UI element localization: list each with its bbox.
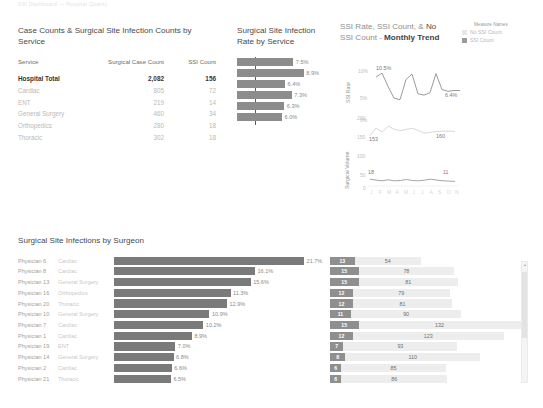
rate-bar-row[interactable]: 6.4% [237, 80, 331, 88]
no-ssi-count-label: 86 [391, 376, 397, 382]
no-ssi-count-bar: 93 [343, 342, 457, 350]
rate-panel-title: Surgical Site Infection Rate by Service [237, 26, 331, 47]
col-header-case-count: Surgical Case Count [92, 58, 164, 71]
surgeon-bar-wrap: 10.9% [114, 310, 330, 318]
rate-bar-row[interactable]: 6.0% [237, 113, 331, 121]
surgeon-service: Thoracic [58, 376, 114, 382]
surgeon-count-row[interactable]: 1354 [330, 257, 526, 265]
surgeon-count-row[interactable]: 12123 [330, 332, 526, 340]
surgeon-bar-wrap: 15.6% [114, 278, 330, 286]
table-row[interactable]: Thoracic30218 [18, 132, 216, 144]
no-ssi-count-label: 54 [385, 258, 391, 264]
surgeon-rate-bars: Physician 6Cardiac21.7%Physician 8Cardia… [18, 257, 330, 386]
cell-case-count: 302 [92, 132, 164, 144]
surgeon-count-row[interactable]: 1279 [330, 289, 526, 297]
ssi-rate-bar-chart: 7.5%8.9%6.4%7.3%6.3%6.0% [237, 58, 331, 121]
surgeon-row[interactable]: Physician 6Cardiac21.7% [18, 257, 330, 265]
cell-ssi-count: 14 [164, 96, 216, 108]
surgeon-count-row[interactable]: 1578 [330, 267, 526, 275]
surgeon-name: Physician 6 [18, 258, 58, 264]
surgeon-count-row[interactable]: 15132 [330, 321, 526, 329]
cell-service: Thoracic [18, 132, 92, 144]
legend-item-no-ssi-count[interactable]: No SSI Count [462, 29, 540, 35]
rate-bar-label: 8.9% [306, 70, 319, 76]
rate-bar-row[interactable]: 7.5% [237, 58, 331, 66]
surgeon-name: Physician 1 [18, 333, 58, 339]
cell-ssi-count: 18 [164, 132, 216, 144]
rate-bar-label: 7.5% [296, 59, 309, 65]
surgeon-row[interactable]: Physician 21Thoracic6.5% [18, 375, 330, 383]
trend-title-part3: SSI Count - [340, 33, 384, 42]
vol-ytick-150: 150 [357, 134, 365, 140]
trend-title-bold: Monthly Trend [384, 33, 439, 42]
col-header-ssi-count: SSI Count [164, 58, 216, 71]
table-row[interactable]: ENT21914 [18, 96, 216, 108]
surgeon-rate-label: 7.0% [178, 343, 191, 349]
x-axis-tick: F [379, 189, 382, 195]
table-row[interactable]: Hospital Total2,082156 [18, 71, 216, 84]
dashboard-page: SSI Dashboard — Hospital Quality Case Co… [0, 0, 543, 408]
legend-swatch-no-ssi [462, 30, 467, 35]
surgeon-count-row[interactable]: 793 [330, 342, 526, 350]
surgeon-count-row[interactable]: 1281 [330, 299, 526, 307]
surgeon-row[interactable]: Physician 10General Surgery10.9% [18, 310, 330, 318]
vol-ytick-0: 0 [363, 185, 366, 191]
surgeon-count-row[interactable]: 686 [330, 375, 526, 383]
surgeon-row[interactable]: Physician 8Cardiac16.1% [18, 267, 330, 275]
surgeon-bar-wrap: 8.9% [114, 332, 330, 340]
vol-ytick-200: 200 [357, 115, 365, 121]
volume-start-label: 153 [369, 136, 378, 142]
rate-bar-row[interactable]: 7.3% [237, 91, 331, 99]
ssi-count-label: 12 [339, 333, 345, 339]
ssi-count-label: 11 [338, 311, 343, 317]
no-ssi-count-bar: 81 [353, 299, 452, 307]
surgeon-count-row[interactable]: 1190 [330, 310, 526, 318]
rate-bar-label: 6.4% [288, 81, 301, 87]
rate-end-label: 6.4% [445, 92, 457, 98]
rate-bar-row[interactable]: 8.9% [237, 69, 331, 77]
ssi-count-bar: 6 [330, 364, 341, 372]
surgeon-count-row[interactable]: 8110 [330, 353, 526, 361]
ssi-count-label: 12 [339, 290, 345, 296]
surgeon-panel: Surgical Site Infections by Surgeon Phys… [18, 236, 526, 385]
surgeon-count-row[interactable]: 1581 [330, 278, 526, 286]
service-counts-table: Service Surgical Case Count SSI Count Ho… [18, 58, 216, 143]
monthly-trend-panel: SSI Rate, SSI Count, & No SSI Count - Mo… [340, 22, 540, 201]
x-axis-tick: J [413, 189, 416, 195]
no-ssi-count-bar: 54 [355, 257, 421, 265]
rate-bar [237, 91, 292, 99]
surgeon-rate-label: 16.1% [258, 268, 274, 274]
legend-swatch-ssi [462, 38, 467, 43]
surgeon-row[interactable]: Physician 1Cardiac8.9% [18, 332, 330, 340]
surgeon-rate-label: 11.3% [233, 290, 248, 296]
surgeon-rate-bar [114, 278, 251, 286]
rate-bar-row[interactable]: 6.3% [237, 102, 331, 110]
surgeon-rate-bar [114, 289, 231, 297]
legend-item-ssi-count[interactable]: SSI Count [462, 37, 540, 43]
vol-ytick-100: 100 [357, 153, 365, 159]
surgeon-count-row[interactable]: 685 [330, 364, 526, 372]
surgeon-name: Physician 21 [18, 376, 58, 382]
surgeon-row[interactable]: Physician 7Cardiac10.2% [18, 321, 330, 329]
no-ssi-count-label: 90 [403, 311, 409, 317]
surgeon-row[interactable]: Physician 2Cardiac6.6% [18, 364, 330, 372]
measure-names-legend: Measure Names No SSI Count SSI Count [462, 22, 540, 45]
table-row[interactable]: Orthopedics28018 [18, 120, 216, 132]
surgeon-rate-label: 6.5% [173, 376, 186, 382]
no-ssi-count-label: 78 [403, 268, 409, 274]
rate-peak-label: 10.5% [376, 65, 391, 71]
no-ssi-count-bar: 86 [341, 375, 447, 383]
surgeon-row[interactable]: Physician 14General Surgery6.8% [18, 353, 330, 361]
cell-ssi-count: 156 [164, 71, 216, 84]
surgeon-row[interactable]: Physician 13General Surgery15.6% [18, 278, 330, 286]
surgeon-row[interactable]: Physician 20Thoracic12.9% [18, 299, 330, 307]
x-axis-tick: O [447, 189, 451, 195]
cell-case-count: 2,082 [92, 71, 164, 84]
table-row[interactable]: Cardiac80572 [18, 84, 216, 96]
legend-label-ssi: SSI Count [470, 37, 494, 43]
cell-service: Hospital Total [18, 71, 92, 84]
table-row[interactable]: General Surgery46034 [18, 108, 216, 120]
surgeon-bar-wrap: 6.5% [114, 375, 330, 383]
surgeon-row[interactable]: Physician 19ENT7.0% [18, 342, 330, 350]
surgeon-row[interactable]: Physician 16Orthopedics11.3% [18, 289, 330, 297]
